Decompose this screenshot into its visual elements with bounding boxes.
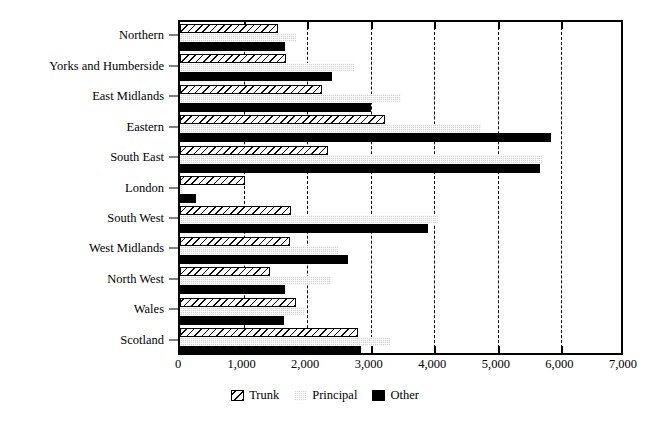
bar-trunk: [180, 267, 270, 276]
bar-group: [180, 205, 621, 235]
bar-other: [180, 316, 284, 325]
x-axis-tick-label: 1,000: [228, 358, 256, 371]
x-axis-tick-label: 4,000: [418, 358, 446, 371]
bar-other: [180, 103, 371, 112]
x-axis-tick-label: 5,000: [482, 358, 510, 371]
bar-principal: [180, 185, 183, 194]
y-axis-label: Eastern: [127, 120, 164, 133]
bar-other: [180, 285, 285, 294]
bar-group: [180, 327, 621, 357]
bar-principal: [180, 307, 305, 316]
hatched-swatch: [231, 390, 244, 401]
y-axis-tick: [169, 126, 178, 127]
legend-label: Trunk: [249, 388, 279, 403]
bar-other: [180, 224, 428, 233]
y-axis-tick: [169, 35, 178, 36]
bar-other: [180, 133, 551, 142]
y-axis-tick: [169, 339, 178, 340]
y-axis-tick: [169, 217, 178, 218]
bar-principal: [180, 276, 331, 285]
bar-principal: [180, 124, 481, 133]
y-axis-tick: [169, 65, 178, 66]
x-axis-tick-label: 6,000: [545, 358, 573, 371]
bar-other: [180, 72, 332, 81]
y-axis-tick: [169, 157, 178, 158]
bar-group: [180, 296, 621, 326]
bar-trunk: [180, 115, 385, 124]
bar-trunk: [180, 206, 291, 215]
y-axis-label: Northern: [119, 29, 164, 42]
bar-other: [180, 346, 361, 355]
bar-principal: [180, 246, 338, 255]
bar-trunk: [180, 54, 286, 63]
x-axis-tick-label: 0: [175, 358, 181, 371]
bar-trunk: [180, 24, 278, 33]
bar-principal: [180, 33, 296, 42]
stippled-swatch: [294, 390, 307, 401]
legend-item: Trunk: [231, 388, 279, 403]
y-axis-label: Scotland: [120, 334, 164, 347]
bar-other: [180, 42, 285, 51]
plot-area: [178, 20, 623, 355]
legend-item: Principal: [294, 388, 357, 403]
x-axis-tick-label: 2,000: [291, 358, 319, 371]
bar-trunk: [180, 146, 328, 155]
bar-group: [180, 52, 621, 82]
bar-trunk: [180, 176, 245, 185]
legend-label: Other: [390, 388, 418, 403]
legend-item: Other: [372, 388, 418, 403]
bar-other: [180, 255, 348, 264]
y-axis-tick: [169, 187, 178, 188]
y-axis-label: Yorks and Humberside: [49, 59, 164, 72]
bar-trunk: [180, 298, 296, 307]
bar-group: [180, 113, 621, 143]
black-swatch: [372, 390, 385, 401]
y-axis-tick: [169, 278, 178, 279]
bar-principal: [180, 215, 438, 224]
bar-group: [180, 22, 621, 52]
legend-label: Principal: [312, 388, 357, 403]
bar-trunk: [180, 237, 290, 246]
y-axis-label: South East: [110, 151, 164, 164]
bar-group: [180, 235, 621, 265]
bar-principal: [180, 155, 542, 164]
bar-group: [180, 174, 621, 204]
bar-groups: [180, 22, 621, 353]
y-axis-label: Wales: [134, 303, 164, 316]
bar-principal: [180, 337, 390, 346]
chart-legend: TrunkPrincipalOther: [0, 388, 650, 403]
x-axis-tick-label: 7,000: [609, 358, 637, 371]
bar-other: [180, 194, 196, 203]
y-axis-tick: [169, 309, 178, 310]
y-axis-tick: [169, 248, 178, 249]
y-axis-label: East Midlands: [92, 90, 164, 103]
y-axis-label: South West: [107, 212, 164, 225]
y-axis-tick: [169, 96, 178, 97]
bar-other: [180, 164, 540, 173]
bar-trunk: [180, 85, 322, 94]
y-axis-label: West Midlands: [89, 242, 164, 255]
x-axis-tick-labels: 01,0002,0003,0004,0005,0006,0007,000: [0, 358, 650, 378]
x-axis-tick-label: 3,000: [355, 358, 383, 371]
bar-chart: NorthernYorks and HumbersideEast Midland…: [0, 0, 650, 426]
bar-principal: [180, 63, 354, 72]
bar-group: [180, 266, 621, 296]
bar-trunk: [180, 328, 358, 337]
bar-principal: [180, 94, 401, 103]
y-axis-category-labels: NorthernYorks and HumbersideEast Midland…: [0, 20, 178, 355]
bar-group: [180, 144, 621, 174]
bar-group: [180, 83, 621, 113]
y-axis-label: North West: [107, 273, 164, 286]
y-axis-label: London: [125, 181, 164, 194]
